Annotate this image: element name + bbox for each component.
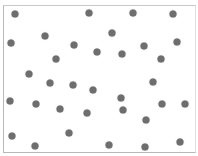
data-point — [158, 56, 165, 63]
data-point — [143, 117, 150, 124]
data-point — [130, 10, 137, 17]
data-point — [53, 56, 60, 63]
data-point — [42, 33, 49, 40]
data-point — [170, 11, 177, 18]
data-point — [177, 139, 184, 146]
data-point — [84, 110, 91, 117]
data-point — [47, 80, 54, 87]
data-point — [90, 87, 97, 94]
data-point — [12, 11, 19, 18]
data-point — [109, 30, 116, 37]
data-point — [141, 43, 148, 50]
data-point — [150, 79, 157, 86]
data-point — [174, 39, 181, 46]
data-point — [120, 107, 127, 114]
data-point — [182, 101, 189, 108]
data-point — [57, 106, 64, 113]
data-point — [9, 133, 16, 140]
data-point — [7, 98, 14, 105]
data-point — [33, 101, 40, 108]
data-point — [32, 143, 39, 150]
data-point — [70, 82, 77, 89]
data-point — [8, 40, 15, 47]
data-point — [119, 51, 126, 58]
data-point — [66, 130, 73, 137]
data-point — [26, 71, 33, 78]
data-point — [71, 42, 78, 49]
data-point — [94, 49, 101, 56]
data-point — [106, 142, 113, 149]
data-point — [118, 95, 125, 102]
data-point — [86, 10, 93, 17]
plot-frame — [3, 5, 196, 153]
data-point — [142, 144, 149, 151]
data-point — [159, 101, 166, 108]
